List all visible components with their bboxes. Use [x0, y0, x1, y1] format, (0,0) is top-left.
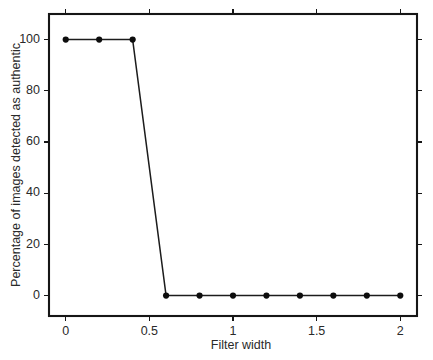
data-point-marker — [163, 292, 169, 298]
y-axis-label: Percentage of images detected as authent… — [9, 43, 23, 287]
x-tick-label-3: 1.5 — [308, 324, 325, 338]
y-tick-label-1: 20 — [26, 237, 40, 251]
data-point-marker — [397, 292, 403, 298]
x-tick-label-4: 2 — [397, 324, 404, 338]
data-point-marker — [63, 36, 69, 42]
data-point-marker — [297, 292, 303, 298]
x-tick-label-0: 0 — [62, 324, 69, 338]
data-point-marker — [364, 292, 370, 298]
data-point-marker — [130, 36, 136, 42]
x-axis-label: Filter width — [211, 338, 271, 352]
data-point-marker — [230, 292, 236, 298]
y-tick-label-2: 40 — [26, 185, 40, 199]
chart-figure: 00.511.52020406080100 Filter width Perce… — [0, 0, 433, 360]
data-point-marker — [330, 292, 336, 298]
y-tick-label-0: 0 — [33, 288, 40, 302]
x-tick-label-2: 1 — [230, 324, 237, 338]
line-chart: 00.511.52020406080100 Filter width Perce… — [0, 0, 433, 360]
chart-background — [0, 0, 433, 360]
x-tick-label-1: 0.5 — [141, 324, 158, 338]
data-point-marker — [196, 292, 202, 298]
y-tick-label-4: 80 — [26, 83, 40, 97]
data-point-marker — [263, 292, 269, 298]
y-tick-label-3: 60 — [26, 134, 40, 148]
data-point-marker — [96, 36, 102, 42]
